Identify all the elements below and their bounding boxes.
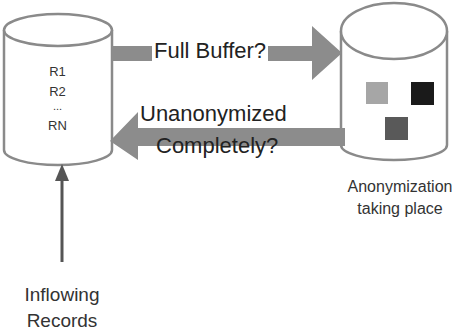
record-label: RN [3, 118, 112, 133]
unanonymized-label: Unanonymized [138, 101, 289, 127]
input-arrow [55, 164, 69, 262]
light-block [366, 82, 388, 104]
record-label: R1 [3, 64, 112, 79]
medium-block [385, 117, 408, 140]
anonymization-caption: Anonymization taking place [330, 176, 470, 220]
completely-label: Completely? [156, 133, 278, 159]
record-ellipsis: ... [3, 100, 112, 112]
input-line-1: Inflowing [0, 282, 124, 308]
record-label: R2 [3, 84, 112, 99]
caption-line-1: Anonymization [330, 176, 470, 198]
full-buffer-label: Full Buffer? [152, 38, 268, 64]
dark-block [411, 82, 434, 105]
inflowing-records-caption: Inflowing Records [0, 282, 124, 330]
caption-line-2: taking place [330, 198, 470, 220]
input-line-2: Records [0, 308, 124, 330]
